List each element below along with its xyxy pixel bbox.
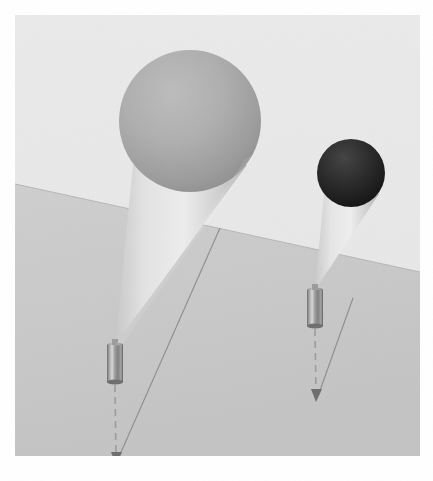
cylinder-large-cap-bottom [107, 379, 123, 384]
scene-svg [15, 15, 420, 456]
arrow-head-large [111, 452, 122, 456]
cylinder-small-body [307, 290, 323, 326]
weight-cylinder-small [307, 284, 323, 329]
cylinder-small-neck [312, 284, 318, 290]
scene-viewport [15, 15, 420, 456]
cylinder-large-body [107, 345, 123, 382]
image-canvas [0, 0, 433, 481]
cylinder-small-cap-bottom [307, 323, 323, 328]
sphere-small [317, 139, 385, 207]
